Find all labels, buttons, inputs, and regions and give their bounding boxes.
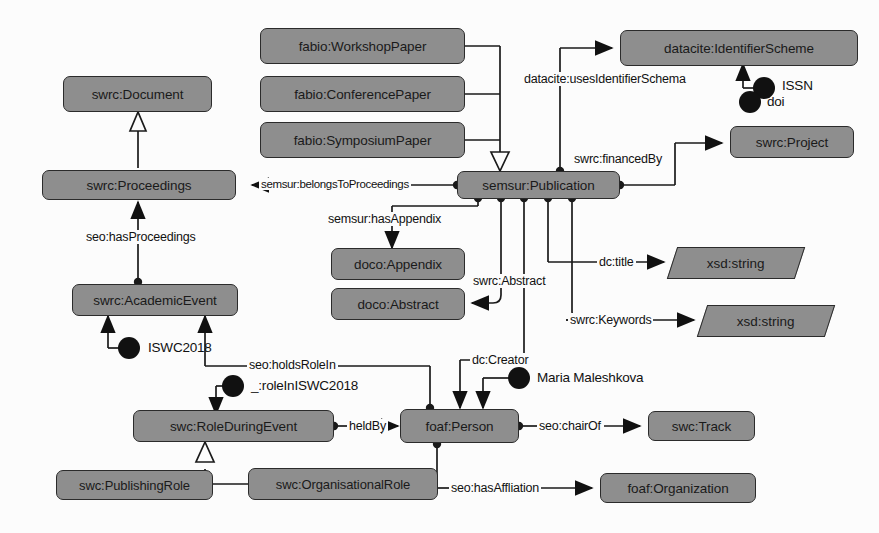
node-label: fabio:ConferencePaper <box>294 87 431 102</box>
individual-node-doi[interactable] <box>739 91 761 113</box>
node-label: datacite:IdentifierScheme <box>664 41 814 56</box>
node-label: swc:PublishingRole <box>79 478 190 493</box>
individual-label-doi: doi <box>765 94 786 109</box>
class-node-swc-roleduringevent[interactable]: swc:RoleDuringEvent <box>133 410 334 442</box>
edge-label-held-by: heldBy <box>347 419 388 433</box>
class-node-swrc-proceedings[interactable]: swrc:Proceedings <box>42 170 236 200</box>
class-node-fabio-workshoppaper[interactable]: fabio:WorkshopPaper <box>260 28 465 64</box>
individual-node-role-in-iswc2018[interactable] <box>222 375 244 397</box>
individual-label-maria-maleshkova: Maria Maleshkova <box>535 370 645 385</box>
individual-label-role-in-iswc2018: _:roleInISWC2018 <box>249 378 360 393</box>
node-label: fabio:SymposiumPaper <box>294 133 432 148</box>
edge-label-has-proceedings: seo:hasProceedings <box>84 230 198 244</box>
class-node-foaf-organization[interactable]: foaf:Organization <box>600 473 756 503</box>
node-label: foaf:Organization <box>627 481 728 496</box>
node-label: swc:Track <box>672 419 731 434</box>
class-node-swrc-document[interactable]: swrc:Document <box>63 76 212 112</box>
class-node-swc-track[interactable]: swc:Track <box>648 411 755 441</box>
edge-label-has-appendix: semsur:hasAppendix <box>326 212 443 226</box>
class-node-swc-publishingrole[interactable]: swc:PublishingRole <box>56 470 213 500</box>
edge-label-holds-role-in: seo:holdsRoleIn <box>247 358 338 372</box>
node-label: xsd:string <box>707 256 765 271</box>
node-label: swrc:Proceedings <box>87 178 192 193</box>
datatype-node-xsd-string-title[interactable]: xsd:string <box>667 247 805 279</box>
individual-label-issn: ISSN <box>780 78 815 93</box>
class-node-foaf-person[interactable]: foaf:Person <box>400 409 519 443</box>
class-node-semsur-publication[interactable]: semsur:Publication <box>457 171 620 199</box>
node-label: swrc:AcademicEvent <box>93 293 217 308</box>
node-label: foaf:Person <box>426 419 494 434</box>
edge-label-uses-identifier-schema: datacite:usesIdentifierSchema <box>522 72 688 86</box>
edge-label-belongs-to-proceedings: semsur:belongsToProceedings <box>259 178 411 190</box>
edge-label-has-affliation: seo:hasAffliation <box>449 481 541 495</box>
edge-label-title: dc:title <box>597 255 636 269</box>
edge-label-financed-by: swrc:financedBy <box>572 152 664 166</box>
class-node-fabio-conferencepaper[interactable]: fabio:ConferencePaper <box>260 76 465 112</box>
ontology-diagram-canvas: swrc:Document swrc:Proceedings swrc:Acad… <box>0 0 879 533</box>
individual-node-iswc2018[interactable] <box>118 337 140 359</box>
datatype-node-xsd-string-keywords[interactable]: xsd:string <box>697 305 835 337</box>
node-label: swc:RoleDuringEvent <box>170 419 297 434</box>
node-label: xsd:string <box>737 314 795 329</box>
class-node-swc-organisationalrole[interactable]: swc:OrganisationalRole <box>248 468 438 500</box>
class-node-swrc-academicevent[interactable]: swrc:AcademicEvent <box>72 284 238 316</box>
class-node-doco-abstract[interactable]: doco:Abstract <box>331 288 465 320</box>
class-node-swrc-project[interactable]: swrc:Project <box>730 126 854 158</box>
node-label: semsur:Publication <box>482 178 594 193</box>
individual-node-maria-maleshkova[interactable] <box>508 367 530 389</box>
node-label: swc:OrganisationalRole <box>276 477 410 492</box>
edge-label-abstract: swrc:Abstract <box>471 274 547 288</box>
edge-label-keywords: swrc:Keywords <box>568 313 653 327</box>
node-label: swrc:Document <box>92 87 184 102</box>
node-label: doco:Abstract <box>357 297 438 312</box>
node-label: swrc:Project <box>756 135 828 150</box>
edge-label-creator: dc:Creator <box>470 353 530 367</box>
class-node-doco-appendix[interactable]: doco:Appendix <box>331 248 465 280</box>
class-node-fabio-symposiumpaper[interactable]: fabio:SymposiumPaper <box>260 122 465 158</box>
node-label: doco:Appendix <box>354 257 442 272</box>
node-label: fabio:WorkshopPaper <box>299 39 427 54</box>
edge-label-chair-of: seo:chairOf <box>537 419 603 433</box>
class-node-datacite-identifierscheme[interactable]: datacite:IdentifierScheme <box>620 30 858 66</box>
individual-label-iswc2018: ISWC2018 <box>146 340 214 355</box>
